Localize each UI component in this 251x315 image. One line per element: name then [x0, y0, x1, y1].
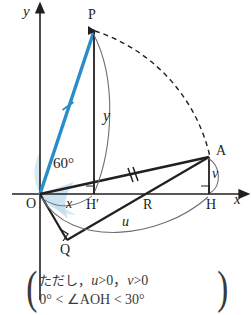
point-label-A: A: [216, 144, 226, 158]
point-label-H: H: [206, 198, 216, 212]
point-label-R: R: [143, 198, 152, 212]
dashed-arc-PA: [95, 31, 210, 157]
angle-label-60deg: 60°: [53, 156, 74, 171]
point-label-Hprime: H′: [86, 198, 99, 212]
note-block: ( ただし，u>0，v>0 0° < ∠AOH < 30° ): [24, 263, 230, 313]
note-close-paren: ): [217, 265, 228, 311]
measure-label-y: y: [103, 108, 110, 124]
note-open-paren: (: [26, 265, 37, 311]
measure-label-u: u: [122, 215, 129, 229]
point-label-O: O: [26, 197, 36, 211]
note-lines: ただし，u>0，v>0 0° < ∠AOH < 30°: [39, 269, 214, 308]
right-angle-mark-h: [201, 186, 209, 194]
note-line1-cond2-rest: >0: [133, 273, 148, 288]
x-axis-label: x: [234, 192, 241, 207]
note-line1-prefix: ただし，: [39, 273, 91, 288]
note-line1-cond1-rest: >0，: [98, 273, 127, 288]
note-line-1: ただし，u>0，v>0: [39, 269, 214, 289]
y-axis-label: y: [23, 4, 30, 19]
point-label-P: P: [88, 8, 96, 22]
point-label-Q: Q: [60, 243, 70, 257]
note-line-2: 0° < ∠AOH < 30°: [39, 291, 214, 308]
measure-label-v: v: [212, 167, 218, 181]
geometry-figure: y x O P A H′ R H Q 60° x y u v ( ただし，u>0…: [0, 0, 251, 315]
right-angle-mark-hprime: [86, 186, 94, 194]
measure-label-x: x: [66, 197, 72, 211]
